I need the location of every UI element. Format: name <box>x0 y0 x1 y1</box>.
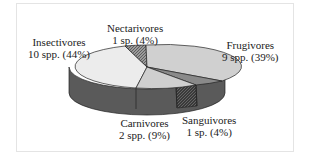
label-name: Insectivores <box>28 36 90 48</box>
label-name: Nectarivores <box>107 22 163 34</box>
label-name: Frugivores <box>222 39 279 51</box>
label-carnivores: Carnivores 2 spp. (9%) <box>119 117 170 141</box>
label-value: 10 spp. (44%) <box>28 48 90 60</box>
label-value: 9 spp. (39%) <box>222 51 279 63</box>
label-sanguivores: Sanguivores 1 sp. (4%) <box>182 114 236 138</box>
label-name: Carnivores <box>119 117 170 129</box>
label-value: 1 sp. (4%) <box>107 34 163 46</box>
pie-top <box>75 44 242 88</box>
label-value: 2 spp. (9%) <box>119 129 170 141</box>
label-name: Sanguivores <box>182 114 236 126</box>
label-insectivores: Insectivores 10 spp. (44%) <box>28 36 90 60</box>
label-frugivores: Frugivores 9 spp. (39%) <box>222 39 279 63</box>
label-nectarivores: Nectarivores 1 sp. (4%) <box>107 22 163 46</box>
label-value: 1 sp. (4%) <box>182 126 236 138</box>
